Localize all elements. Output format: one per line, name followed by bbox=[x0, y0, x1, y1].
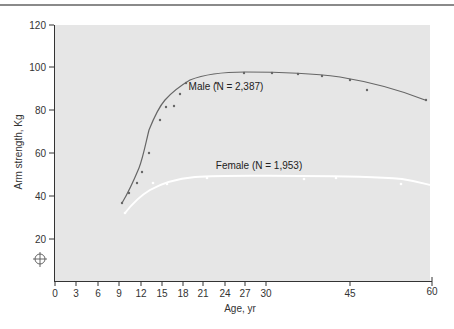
y-tick-label: 60 bbox=[35, 148, 47, 159]
x-tick-label: 18 bbox=[177, 288, 189, 299]
y-tick-label: 40 bbox=[35, 191, 47, 202]
y-ticks: 120 100 80 60 40 20 bbox=[29, 20, 54, 245]
x-tick-label: 3 bbox=[73, 288, 79, 299]
x-tick-label: 15 bbox=[156, 288, 168, 299]
x-tick-label: 12 bbox=[135, 288, 147, 299]
x-tick-label: 45 bbox=[344, 288, 356, 299]
y-tick-label: 100 bbox=[29, 62, 46, 73]
x-tick-label: 21 bbox=[197, 288, 209, 299]
crosshair-icon bbox=[33, 252, 47, 267]
x-tick-label: 30 bbox=[260, 288, 272, 299]
x-tick-label: 27 bbox=[239, 288, 251, 299]
female-curve bbox=[125, 176, 430, 213]
x-tick-label: 6 bbox=[95, 288, 101, 299]
y-tick-label: 120 bbox=[29, 20, 46, 31]
y-tick-label: 80 bbox=[35, 105, 47, 116]
female-series-label: Female (N = 1,953) bbox=[216, 160, 302, 171]
y-axis-title: Arm strength, Kg bbox=[13, 114, 24, 189]
male-series-label: Male (N = 2,387) bbox=[189, 81, 264, 92]
x-tick-label: 60 bbox=[426, 286, 438, 297]
x-tick-label: 0 bbox=[52, 288, 58, 299]
x-ticks: 0 3 6 9 12 15 18 21 24 27 30 45 60 bbox=[52, 277, 438, 299]
x-tick-label: 24 bbox=[219, 288, 231, 299]
x-axis-title: Age, yr bbox=[224, 303, 256, 314]
x-tick-label: 9 bbox=[116, 288, 122, 299]
y-tick-label: 20 bbox=[35, 234, 47, 245]
chart-svg: 120 100 80 60 40 20 0 3 6 9 12 15 18 21 … bbox=[0, 0, 454, 329]
